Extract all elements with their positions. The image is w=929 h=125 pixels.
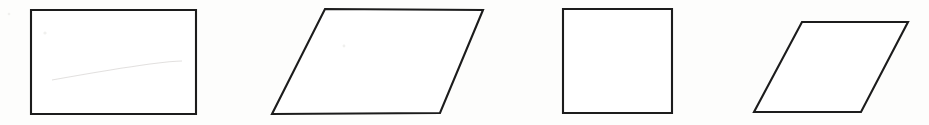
scan-fleck-a-artifact bbox=[43, 31, 46, 34]
shape-narrow-parallelogram bbox=[754, 22, 908, 112]
figure-canvas bbox=[0, 0, 929, 125]
shapes-svg bbox=[0, 0, 929, 125]
scan-fleck-b-artifact bbox=[8, 13, 11, 16]
scan-fleck-c-artifact bbox=[343, 45, 346, 48]
shape-square bbox=[563, 9, 672, 113]
shape-wide-parallelogram bbox=[272, 9, 483, 114]
